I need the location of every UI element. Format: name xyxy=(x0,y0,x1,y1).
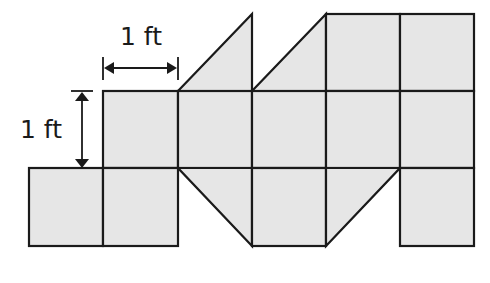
vertical-unit-label: 1 ft xyxy=(20,115,62,144)
arrow-down-icon xyxy=(75,159,89,168)
triangle-r2-c2 xyxy=(178,168,252,246)
square-r0-c4 xyxy=(326,14,400,91)
triangle-r0-c2 xyxy=(178,14,252,91)
arrow-left-icon xyxy=(104,62,114,74)
square-r1-c1 xyxy=(103,91,178,168)
square-r1-c4 xyxy=(326,91,400,168)
horizontal-dimension xyxy=(103,57,178,80)
composite-figure: 1 ft 1 ft xyxy=(0,0,490,283)
square-r0-c5 xyxy=(400,14,474,91)
square-r1-c2 xyxy=(178,91,252,168)
square-r1-c3 xyxy=(252,91,326,168)
triangle-r0-c3 xyxy=(252,14,326,91)
square-r2-c1 xyxy=(103,168,178,246)
triangle-r2-c4 xyxy=(326,168,400,246)
horizontal-unit-label: 1 ft xyxy=(120,22,162,51)
square-r1-c5 xyxy=(400,91,474,168)
square-r2-c5 xyxy=(400,168,474,246)
arrow-up-icon xyxy=(75,92,89,101)
arrow-right-icon xyxy=(167,62,177,74)
vertical-dimension xyxy=(71,91,93,168)
square-r2-c0 xyxy=(29,168,103,246)
square-r2-c3 xyxy=(252,168,326,246)
